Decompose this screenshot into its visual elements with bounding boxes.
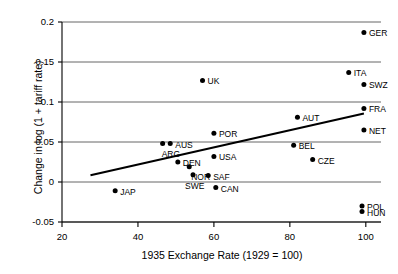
data-point xyxy=(168,141,173,146)
data-point xyxy=(295,115,300,120)
data-point xyxy=(361,30,366,35)
data-point xyxy=(361,82,366,87)
data-point-label: JAP xyxy=(120,188,136,197)
data-point-label: DEN xyxy=(183,159,201,168)
data-point-label: POR xyxy=(219,130,237,139)
data-point xyxy=(175,160,180,165)
data-point-label: NET xyxy=(369,127,386,136)
data-point xyxy=(361,106,366,111)
data-point-label: CAN xyxy=(221,185,239,194)
data-point-label: FRA xyxy=(369,105,386,114)
data-point xyxy=(211,131,216,136)
y-axis-title: Change in log (1 + tariff rate) xyxy=(33,17,44,237)
data-point-label: AUS xyxy=(175,141,192,150)
data-point xyxy=(113,188,118,193)
x-tick-label: 40 xyxy=(133,232,144,242)
data-point xyxy=(360,209,365,214)
data-point-label: HUN xyxy=(367,209,385,218)
trend-line-group xyxy=(90,114,363,176)
x-tick-label: 20 xyxy=(57,232,68,242)
data-point xyxy=(213,185,218,190)
x-tick-label: 60 xyxy=(209,232,220,242)
trend-line xyxy=(90,114,363,176)
data-point-label: GER xyxy=(369,29,387,38)
data-point xyxy=(360,204,365,209)
data-point-label: UK xyxy=(208,77,220,86)
data-point-label: ITA xyxy=(354,69,367,78)
data-point-label: ARG xyxy=(162,150,180,159)
data-point xyxy=(310,157,315,162)
data-point xyxy=(160,141,165,146)
x-tick-label: 100 xyxy=(358,232,374,242)
scatter-chart-figure: 0.20.150.10.050-0.0520406080100 GERITASW… xyxy=(0,0,398,274)
data-point xyxy=(346,70,351,75)
data-point-label: SAF xyxy=(213,173,230,182)
data-point xyxy=(200,78,205,83)
y-tick-marks-group xyxy=(58,22,62,222)
data-point-label: BEL xyxy=(299,142,315,151)
x-axis-title: 1935 Exchange Rate (1929 = 100) xyxy=(62,250,382,261)
data-point xyxy=(291,143,296,148)
x-tick-marks-group xyxy=(62,222,366,227)
data-point-label: SWZ xyxy=(369,81,388,90)
x-tick-label: 80 xyxy=(285,232,296,242)
data-point-label: USA xyxy=(219,153,236,162)
data-point-label: SWE xyxy=(185,182,204,191)
data-point-label: AUT xyxy=(302,114,319,123)
data-point xyxy=(211,154,216,159)
data-point xyxy=(361,128,366,133)
data-point-label: CZE xyxy=(318,157,335,166)
